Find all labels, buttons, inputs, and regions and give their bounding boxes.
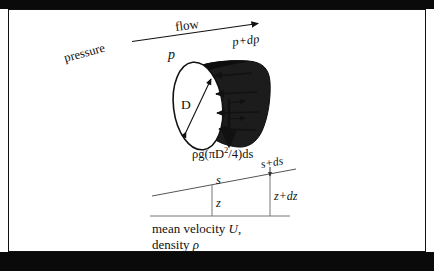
caption-density-symbol: ρ [193,237,199,252]
caption-line-density: density ρ [152,238,199,251]
figure-container: flow pressure p p+dp D ρg(πD2/4)ds s s+d… [0,0,434,271]
weight-force-label: ρg(πD2/4)ds [192,148,253,161]
weight-label-prefix: ρg(πD [192,147,224,161]
weight-label-suffix: /4)ds [228,147,253,161]
distance-s-label: s [216,174,221,187]
caption-velocity-comma: , [238,221,241,236]
elevation-z-label: z [216,197,221,210]
caption-density-text: density [152,237,193,252]
flow-label: flow [174,17,199,33]
pressure-outlet-label: p+dp [231,33,260,49]
elevation-zdz-label: z+dz [274,190,297,202]
diameter-label: D [181,98,191,112]
caption-velocity-text: mean velocity [152,221,229,236]
caption-line-velocity: mean velocity U, [152,222,241,235]
caption-velocity-symbol: U [229,221,238,236]
pressure-inlet-label: p [168,48,175,62]
